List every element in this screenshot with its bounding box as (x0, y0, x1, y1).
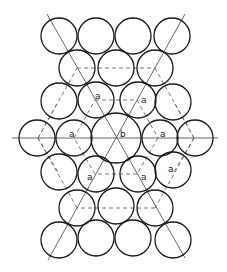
site-label-a: a (87, 172, 93, 182)
site-label-a: a (69, 129, 75, 139)
circle (155, 84, 191, 120)
circle (115, 220, 151, 256)
solid-axis-lines (12, 14, 218, 260)
site-label-a: a (141, 95, 147, 105)
circle (154, 18, 190, 54)
circle (41, 154, 77, 190)
circle (78, 220, 114, 256)
site-label-a: a (160, 129, 166, 139)
site-label-b: b (120, 129, 126, 139)
circle (98, 188, 134, 224)
circle (115, 18, 151, 54)
site-label-a: a (141, 172, 147, 182)
circle (78, 18, 114, 54)
dashed-line (38, 68, 77, 138)
site-label-a: a (168, 164, 174, 174)
site-label-a: a (95, 91, 101, 101)
circle (155, 222, 191, 258)
dashed-line (38, 138, 77, 208)
circle-packing-diagram: aaabaaaa (0, 0, 227, 272)
